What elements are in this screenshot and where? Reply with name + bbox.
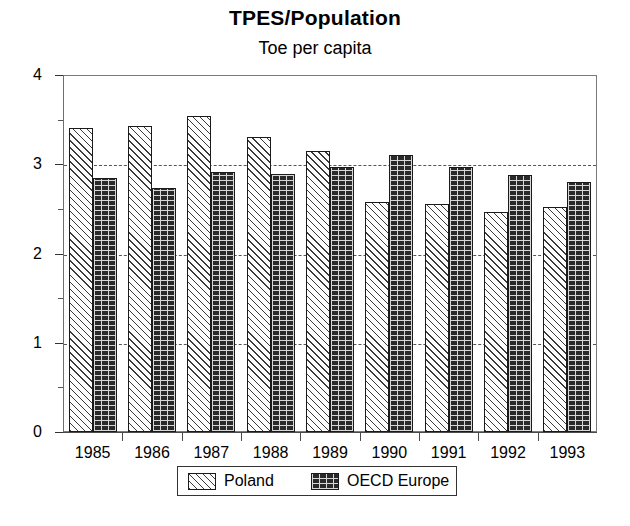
bar-poland-1988 [247, 137, 271, 432]
x-tick-4 [300, 432, 301, 441]
chart-title: TPES/Population [0, 6, 630, 30]
x-tick-2 [182, 432, 183, 441]
y-axis-label-1: 1 [12, 335, 42, 351]
bar-group-1990 [360, 75, 419, 432]
y-tick-4 [55, 75, 63, 76]
chart-container: TPES/Population Toe per capita 01234 198… [0, 0, 630, 526]
bars-layer [63, 75, 597, 432]
bar-group-1987 [182, 75, 241, 432]
bar-group-1991 [419, 75, 478, 432]
x-tick-6 [419, 432, 420, 441]
y-tick-1 [55, 343, 63, 344]
legend-item-oecd-europe: OECD Europe [311, 467, 449, 495]
bar-group-1986 [122, 75, 181, 432]
bar-oecd-europe-1990 [389, 155, 413, 432]
y-axis-label-4: 4 [12, 67, 42, 83]
bar-group-1993 [538, 75, 597, 432]
bar-oecd-europe-1985 [93, 178, 117, 432]
bar-poland-1986 [128, 126, 152, 432]
bar-group-1992 [478, 75, 537, 432]
chart-subtitle: Toe per capita [0, 38, 630, 59]
y-tick-3 [55, 164, 63, 165]
x-tick-5 [360, 432, 361, 441]
x-axis-line [63, 432, 597, 433]
legend-swatch-oecd-europe-icon [311, 473, 339, 490]
y-axis-label-0: 0 [12, 424, 42, 440]
x-axis-label-1988: 1988 [241, 444, 301, 462]
bar-group-1989 [300, 75, 359, 432]
legend-label-poland: Poland [224, 472, 274, 490]
y-tick-0 [55, 432, 63, 433]
bar-oecd-europe-1993 [567, 182, 591, 432]
y-tick-2 [55, 254, 63, 255]
legend-label-oecd-europe: OECD Europe [347, 472, 449, 490]
y-axis-label-3: 3 [12, 156, 42, 172]
bar-poland-1992 [484, 212, 508, 432]
bar-oecd-europe-1989 [330, 167, 354, 432]
x-axis-label-1985: 1985 [63, 444, 123, 462]
bar-poland-1991 [425, 204, 449, 432]
bar-oecd-europe-1986 [152, 188, 176, 432]
x-tick-1 [122, 432, 123, 441]
bar-poland-1985 [69, 128, 93, 432]
bar-poland-1987 [187, 116, 211, 432]
bar-poland-1993 [543, 207, 567, 432]
x-tick-3 [241, 432, 242, 441]
x-axis-label-1993: 1993 [537, 444, 597, 462]
x-axis-label-1990: 1990 [359, 444, 419, 462]
x-axis-label-1992: 1992 [478, 444, 538, 462]
bar-oecd-europe-1988 [271, 174, 295, 432]
bar-group-1985 [63, 75, 122, 432]
x-axis-label-1989: 1989 [300, 444, 360, 462]
x-axis-label-1991: 1991 [419, 444, 479, 462]
legend-swatch-poland-icon [188, 473, 216, 490]
bar-poland-1990 [365, 202, 389, 432]
bar-oecd-europe-1992 [508, 175, 532, 432]
bar-oecd-europe-1987 [211, 172, 235, 432]
legend-item-poland: Poland [188, 467, 274, 495]
chart-legend: Poland OECD Europe [177, 466, 457, 496]
x-tick-7 [478, 432, 479, 441]
y-axis-label-2: 2 [12, 246, 42, 262]
bar-oecd-europe-1991 [449, 167, 473, 432]
bar-poland-1989 [306, 151, 330, 432]
x-tick-8 [538, 432, 539, 441]
x-axis-label-1986: 1986 [122, 444, 182, 462]
x-axis-label-1987: 1987 [181, 444, 241, 462]
bar-group-1988 [241, 75, 300, 432]
